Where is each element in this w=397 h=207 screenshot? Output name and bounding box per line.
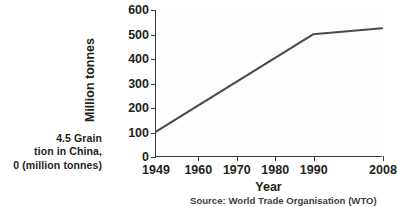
x-axis-tick — [314, 156, 315, 161]
y-axis-tick-label: 200 — [128, 101, 149, 115]
line-chart: Million tonnes 0100200300400500600194919… — [96, 2, 386, 207]
y-axis-tick — [151, 10, 156, 11]
caption-line-2: tion in China, — [0, 145, 102, 158]
x-axis-tick — [275, 156, 276, 161]
series-line-grain-production — [156, 28, 382, 131]
y-axis-tick-label: 500 — [128, 28, 149, 42]
y-axis-tick-label: 0 — [142, 150, 149, 164]
figure-caption: 4.5 Grain tion in China, 0 (million tonn… — [0, 132, 102, 172]
y-axis-tick — [151, 157, 156, 158]
y-axis-title: Million tonnes — [83, 38, 97, 122]
y-axis-tick-label: 400 — [128, 52, 149, 66]
caption-line-3: 0 (million tonnes) — [0, 159, 102, 172]
x-axis-tick — [383, 156, 384, 161]
y-axis-tick — [151, 133, 156, 134]
x-axis-tick-label: 1970 — [223, 163, 251, 177]
y-axis-tick-label: 300 — [128, 77, 149, 91]
y-axis-tick — [151, 84, 156, 85]
y-axis-tick — [151, 108, 156, 109]
plot-area: 0100200300400500600194919601970198019902… — [155, 10, 382, 157]
y-axis-tick-label: 600 — [128, 3, 149, 17]
x-axis-tick — [237, 156, 238, 161]
x-axis-tick-label: 2008 — [369, 163, 397, 177]
x-axis-tick-label: 1949 — [142, 163, 170, 177]
x-axis-tick-label: 1980 — [261, 163, 289, 177]
x-axis-tick-label: 1960 — [184, 163, 212, 177]
data-series-svg — [156, 10, 382, 156]
source-note: Source: World Trade Organisation (WTO) — [190, 195, 386, 206]
y-axis-tick — [151, 35, 156, 36]
y-axis-tick-label: 100 — [128, 126, 149, 140]
y-axis-tick — [151, 59, 156, 60]
x-axis-title: Year — [155, 180, 382, 194]
x-axis-tick-label: 1990 — [300, 163, 328, 177]
caption-line-1: 4.5 Grain — [0, 132, 102, 145]
x-axis-tick — [198, 156, 199, 161]
